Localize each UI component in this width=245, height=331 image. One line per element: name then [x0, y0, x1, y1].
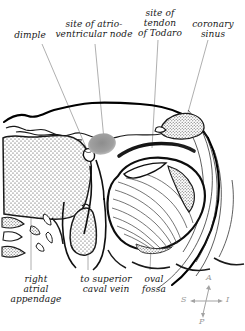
label-av-node: site of atrio- ventricular node [50, 19, 138, 39]
compass-arrow-superior [190, 299, 195, 303]
left-stippled-wall [3, 135, 91, 219]
vestibule-stipple-area [3, 135, 91, 219]
label-right-atrial-appendage: right atrial appendage [0, 274, 72, 304]
leader-line-av-node [95, 44, 104, 140]
compass-label-superior: S [181, 296, 186, 304]
compass-label-inferior: I [226, 296, 229, 304]
label-coronary-sinus: coronary sinus [185, 19, 241, 39]
pectinate-muscles [2, 214, 52, 257]
compass-arrow-anterior [206, 285, 211, 290]
compass-arrow-inferior [218, 299, 223, 303]
label-tendon-of-todaro: site of tendon of Todaro [134, 8, 186, 38]
coronary-sinus-orifice [155, 113, 204, 139]
compass-label-anterior: A [206, 274, 212, 282]
tendon-of-todaro-bar [119, 144, 194, 157]
orientation-compass [190, 285, 223, 318]
compass-label-posterior: P [199, 318, 204, 326]
anatomical-figure: dimple site of atrio- ventricular node s… [0, 0, 245, 331]
label-oval-fossa: oval fossa [128, 274, 180, 294]
